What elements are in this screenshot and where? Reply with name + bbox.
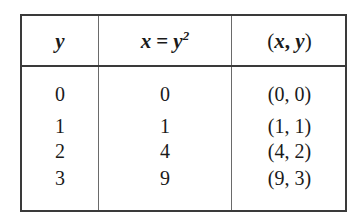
header-x-equals-y-squared: x=y2 xyxy=(99,29,231,53)
header-y-var: y xyxy=(173,29,182,53)
table-cell-y: 2 xyxy=(22,139,98,163)
header-y-label: y xyxy=(55,29,64,53)
header-point-y: y xyxy=(295,29,304,53)
table-cell-point: (0, 0) xyxy=(232,82,347,106)
equals-sign: = xyxy=(151,29,173,53)
table-cell-x: 1 xyxy=(99,114,231,138)
table-cell-x: 9 xyxy=(99,166,231,190)
header-y: y xyxy=(22,29,98,53)
exponent: 2 xyxy=(183,28,190,43)
table-cell-y: 3 xyxy=(22,166,98,190)
header-rule xyxy=(22,65,345,67)
close-paren: ) xyxy=(305,29,312,53)
table-cell-point: (9, 3) xyxy=(232,166,347,190)
values-table: y x=y2 (x, y) 0 0 (0, 0) 1 1 (1, 1) 2 4 … xyxy=(20,14,347,212)
table-cell-point: (4, 2) xyxy=(232,139,347,163)
table-cell-y: 1 xyxy=(22,114,98,138)
table-cell-y: 0 xyxy=(22,82,98,106)
table-cell-x: 0 xyxy=(99,82,231,106)
comma: , xyxy=(285,29,296,53)
table-cell-x: 4 xyxy=(99,139,231,163)
table-cell-point: (1, 1) xyxy=(232,114,347,138)
header-point: (x, y) xyxy=(232,29,347,53)
header-x-var: x xyxy=(141,29,152,53)
header-point-x: x xyxy=(274,29,285,53)
